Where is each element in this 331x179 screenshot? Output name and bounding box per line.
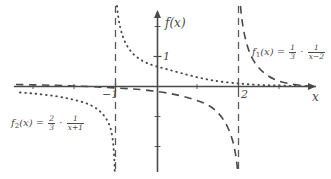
- x-tick-label-two: 2: [241, 88, 248, 101]
- y-axis-arrow: [154, 10, 161, 18]
- x-axis-label: x: [312, 90, 319, 104]
- x-axis: [14, 83, 316, 90]
- f1-arg: (x) =: [260, 46, 285, 57]
- f2-arg: (x) =: [19, 117, 44, 128]
- f2-term-numerator: 1: [67, 115, 84, 123]
- x-tick-label-minus-one: −1: [102, 88, 118, 101]
- f2-multiplication-dot: ·: [59, 117, 62, 128]
- f2-coefficient-numerator: 2: [48, 115, 55, 123]
- function-label-f1: f1(x) = 1 3 · 1 x−2: [252, 44, 326, 61]
- f1-coefficient-denominator: 3: [289, 52, 296, 61]
- f1-term-fraction: 1 x−2: [308, 44, 325, 61]
- f2-term-denominator: x+1: [67, 123, 84, 132]
- f2-coefficient-denominator: 3: [48, 123, 55, 132]
- y-axis-label: f(x): [165, 16, 186, 30]
- f1-multiplication-dot: ·: [300, 46, 303, 57]
- function-plot: f(x) x −1 2 1 f1(x) = 1 3 · 1 x−2 f2(x) …: [0, 0, 331, 179]
- function-label-f2: f2(x) = 2 3 · 1 x+1: [11, 115, 85, 132]
- f1-term-denominator: x−2: [308, 52, 325, 61]
- y-axis: [154, 10, 161, 172]
- f1-coefficient-fraction: 1 3: [289, 44, 296, 61]
- f2-term-fraction: 1 x+1: [67, 115, 84, 132]
- y-tick-label-one: 1: [163, 50, 170, 63]
- curve-f2-left-branch: [20, 93, 115, 173]
- f2-coefficient-fraction: 2 3: [48, 115, 55, 132]
- f1-term-numerator: 1: [308, 44, 325, 52]
- f1-coefficient-numerator: 1: [289, 44, 296, 52]
